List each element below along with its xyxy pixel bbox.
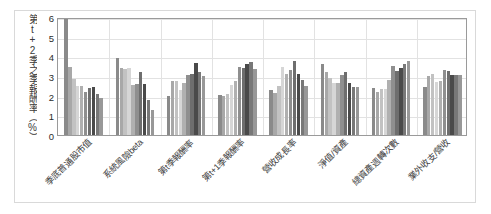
bar (336, 83, 339, 136)
bar (175, 81, 178, 135)
bar (242, 68, 245, 135)
bar (249, 62, 252, 135)
y-axis-tick-labels: 0123456 (40, 18, 54, 136)
bar (443, 70, 446, 135)
x-tick-label: 淨值/資產 (315, 136, 350, 171)
bar (277, 86, 280, 135)
bar (273, 93, 276, 135)
bar-group (314, 19, 365, 135)
bar (435, 82, 438, 135)
bar (450, 75, 453, 135)
bar-group (109, 19, 160, 135)
bar-group (212, 19, 263, 135)
bar (431, 74, 434, 135)
bar (84, 92, 87, 135)
bar (458, 75, 461, 135)
bar (269, 90, 272, 135)
bar (376, 92, 379, 135)
bar (116, 58, 119, 135)
bar (92, 87, 95, 135)
bar (395, 71, 398, 135)
x-tick-label: 第t+1季報酬率 (199, 136, 247, 184)
bar (348, 83, 351, 135)
bar (403, 64, 406, 135)
bar (179, 90, 182, 135)
bar (151, 110, 154, 135)
bar (427, 76, 430, 135)
bar-group (161, 19, 212, 135)
bar (120, 68, 123, 135)
bar (281, 67, 284, 135)
bar (344, 72, 347, 135)
bar (198, 72, 201, 135)
bar (301, 80, 304, 135)
bar (387, 80, 390, 135)
bar (88, 88, 91, 135)
x-tick-label: 業外收支/營收 (405, 136, 453, 184)
bars-layer (58, 19, 466, 135)
bar (135, 84, 138, 135)
chart-figure: 第t+2季之季報酬率（%） 0123456 季底普通股市值系統風險beta第t季… (0, 0, 491, 214)
bar (64, 18, 67, 135)
x-axis-category-labels: 季底普通股市值系統風險beta第t季報酬率第t+1季報酬率營收成長率淨值/資產總… (57, 137, 467, 207)
bar (131, 85, 134, 135)
x-tick-label: 總資產週轉次數 (349, 136, 401, 188)
bar (147, 100, 150, 135)
y-tick-label: 6 (40, 14, 54, 23)
bar (230, 85, 233, 135)
y-axis-title: 第t+2季之季報酬率（%） (22, 14, 37, 159)
bar (127, 68, 130, 135)
bar (399, 68, 402, 135)
x-tick-label: 營收成長率 (259, 136, 299, 176)
bar (72, 79, 75, 135)
y-tick-label: 5 (40, 33, 54, 42)
bar (325, 72, 328, 135)
bar (447, 71, 450, 135)
bar (372, 88, 375, 135)
bar (391, 66, 394, 135)
bar (68, 67, 71, 135)
y-tick-label: 1 (40, 112, 54, 121)
bar-group (263, 19, 314, 135)
bar (80, 86, 83, 135)
bar (340, 75, 343, 135)
bar (190, 74, 193, 135)
bar (139, 72, 142, 135)
x-tick-label: 第t季報酬率 (155, 136, 197, 178)
bar (222, 96, 225, 135)
bar (226, 94, 229, 135)
bar (328, 78, 331, 135)
bar (304, 86, 307, 135)
bar (439, 81, 442, 135)
bar (234, 81, 237, 135)
bar-group (366, 19, 417, 135)
bar (96, 94, 99, 135)
bar (356, 87, 359, 135)
bar (321, 64, 324, 135)
bar (194, 63, 197, 135)
y-tick-label: 3 (40, 73, 54, 82)
y-tick-label: 0 (40, 132, 54, 141)
bar (423, 87, 426, 135)
bar (245, 64, 248, 135)
bar (238, 67, 241, 135)
bar-group (417, 19, 467, 135)
plot-area (57, 18, 467, 136)
bar (143, 84, 146, 135)
bar (285, 74, 288, 135)
bar (171, 81, 174, 135)
y-tick-label: 2 (40, 92, 54, 101)
bar (297, 74, 300, 135)
bar (293, 61, 296, 135)
bar (380, 89, 383, 135)
bar (454, 75, 457, 135)
bar (218, 95, 221, 135)
bar (202, 76, 205, 135)
bar (76, 86, 79, 135)
bar (99, 98, 102, 135)
bar (407, 61, 410, 135)
y-tick-label: 4 (40, 53, 54, 62)
bar (182, 83, 185, 135)
bar (332, 83, 335, 136)
bar (186, 75, 189, 135)
